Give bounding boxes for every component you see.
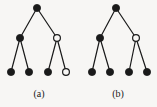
edge-left-leaf-2 bbox=[20, 38, 29, 72]
root-node bbox=[112, 4, 119, 11]
tree-figure: (a) (b) bbox=[0, 0, 157, 107]
right-internal-node bbox=[54, 35, 61, 42]
edge-root-right bbox=[116, 8, 136, 38]
edge-root-left bbox=[20, 8, 37, 38]
edge-right-leaf-3 bbox=[48, 38, 57, 72]
edge-right-leaf-4 bbox=[136, 38, 147, 72]
leaf-node-4 bbox=[143, 68, 150, 75]
leaf-node-3 bbox=[44, 68, 51, 75]
edge-root-right bbox=[37, 8, 57, 38]
edge-left-leaf-1 bbox=[11, 38, 20, 72]
panel-caption-a: (a) bbox=[0, 89, 78, 99]
leaf-node-1 bbox=[88, 68, 95, 75]
leaf-node-1 bbox=[7, 68, 14, 75]
leaf-node-3 bbox=[125, 68, 132, 75]
tree-panel-b bbox=[88, 4, 150, 75]
left-internal-node bbox=[96, 34, 103, 41]
right-internal-node bbox=[133, 35, 140, 42]
leaf-node-2 bbox=[25, 68, 32, 75]
edge-right-leaf-4 bbox=[57, 38, 66, 72]
edge-left-leaf-2 bbox=[100, 38, 110, 72]
tree-panel-a bbox=[7, 4, 69, 75]
edge-root-left bbox=[100, 8, 116, 38]
left-internal-node bbox=[16, 34, 23, 41]
leaf-node-2 bbox=[106, 68, 113, 75]
edge-right-leaf-3 bbox=[129, 38, 136, 72]
leaf-node-4 bbox=[63, 69, 70, 76]
edge-left-leaf-1 bbox=[92, 38, 100, 72]
panel-caption-b: (b) bbox=[79, 89, 157, 99]
root-node bbox=[33, 4, 40, 11]
